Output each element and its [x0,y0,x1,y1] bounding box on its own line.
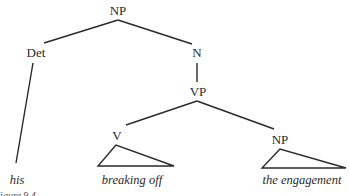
node-vp: VP [190,84,207,99]
node-v: V [112,128,122,143]
node-n: N [192,45,202,60]
edge-np-n [118,20,192,44]
node-np-object: NP [272,132,289,147]
leaf-the-engagement: the engagement [263,173,342,187]
figure-caption: Figure 9.4 [0,190,36,196]
edge-np-det [44,20,118,43]
edge-vp-np [197,101,274,129]
leaf-breaking-off: breaking off [102,173,164,187]
leaf-his: his [10,173,25,187]
edge-vp-v [126,101,197,125]
triangle-v [98,145,174,166]
syntax-tree-diagram: NP Det N VP V NP his breaking off the en… [0,0,349,196]
edge-det-his [16,63,33,163]
triangle-np [262,149,346,168]
node-np-root: NP [110,3,127,18]
node-det: Det [27,45,46,60]
